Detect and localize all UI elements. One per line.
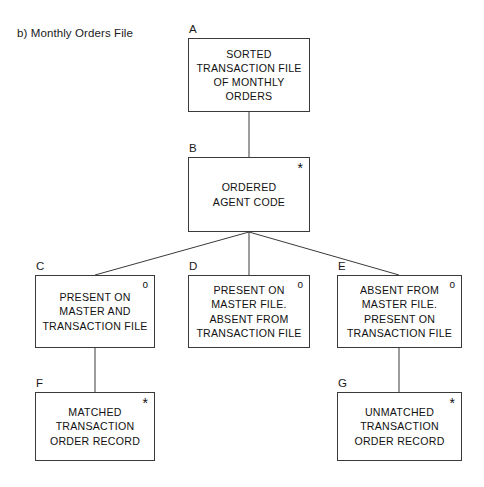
node-text-f: MATCHED TRANSACTION ORDER RECORD	[46, 405, 144, 448]
node-box-c[interactable]: PRESENT ON MASTER AND TRANSACTION FILEo	[35, 275, 155, 348]
node-text-e: ABSENT FROM MASTER FILE. PRESENT ON TRAN…	[343, 283, 456, 340]
node-box-g[interactable]: UNMATCHED TRANSACTION ORDER RECORD*	[337, 392, 462, 461]
node-e[interactable]: EABSENT FROM MASTER FILE. PRESENT ON TRA…	[337, 275, 462, 348]
node-d[interactable]: DPRESENT ON MASTER FILE. ABSENT FROM TRA…	[188, 275, 310, 348]
node-g[interactable]: GUNMATCHED TRANSACTION ORDER RECORD*	[337, 392, 462, 461]
node-label-a: A	[189, 22, 197, 36]
node-text-d: PRESENT ON MASTER FILE. ABSENT FROM TRAN…	[192, 283, 305, 340]
node-text-g: UNMATCHED TRANSACTION ORDER RECORD	[350, 405, 448, 448]
node-label-e: E	[338, 259, 346, 273]
node-text-c: PRESENT ON MASTER AND TRANSACTION FILE	[38, 290, 151, 333]
node-b[interactable]: BORDERED AGENT CODE*	[188, 157, 310, 232]
node-a[interactable]: ASORTED TRANSACTION FILE OF MONTHLY ORDE…	[188, 38, 310, 112]
diagram-title: b) Monthly Orders File	[17, 27, 133, 39]
iteration-marker-icon: *	[450, 397, 455, 409]
node-label-b: B	[189, 141, 197, 155]
iteration-marker-icon: *	[298, 162, 303, 174]
node-text-b: ORDERED AGENT CODE	[209, 180, 289, 208]
iteration-marker-icon: *	[143, 397, 148, 409]
node-c[interactable]: CPRESENT ON MASTER AND TRANSACTION FILEo	[35, 275, 155, 348]
selection-marker-icon: o	[142, 279, 148, 291]
connector-b-to-c	[95, 232, 249, 275]
selection-marker-icon: o	[449, 279, 455, 291]
node-label-d: D	[189, 259, 197, 273]
node-box-d[interactable]: PRESENT ON MASTER FILE. ABSENT FROM TRAN…	[188, 275, 310, 348]
node-label-f: F	[36, 376, 43, 390]
node-box-f[interactable]: MATCHED TRANSACTION ORDER RECORD*	[35, 392, 155, 461]
node-box-e[interactable]: ABSENT FROM MASTER FILE. PRESENT ON TRAN…	[337, 275, 462, 348]
node-f[interactable]: FMATCHED TRANSACTION ORDER RECORD*	[35, 392, 155, 461]
node-text-a: SORTED TRANSACTION FILE OF MONTHLY ORDER…	[192, 47, 305, 104]
node-label-g: G	[338, 376, 347, 390]
connector-b-to-e	[249, 232, 399, 275]
node-label-c: C	[36, 259, 44, 273]
selection-marker-icon: o	[297, 279, 303, 291]
node-box-b[interactable]: ORDERED AGENT CODE*	[188, 157, 310, 232]
structure-diagram-canvas: b) Monthly Orders File ASORTED TRANSACTI…	[0, 0, 484, 487]
node-box-a[interactable]: SORTED TRANSACTION FILE OF MONTHLY ORDER…	[188, 38, 310, 112]
